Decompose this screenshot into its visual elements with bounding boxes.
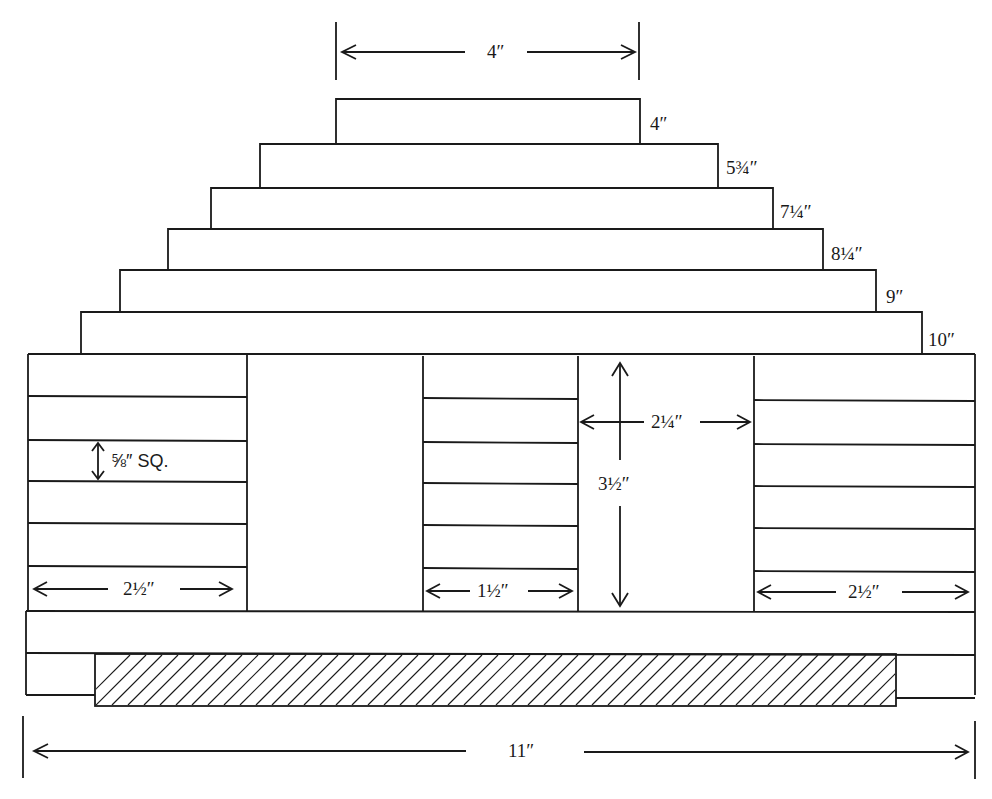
opening-width-label: 2¼″ bbox=[651, 412, 683, 431]
step-label-6: 10″ bbox=[928, 330, 955, 349]
stick-size-label: ⅝″ SQ. bbox=[111, 452, 168, 470]
step-label-5: 9″ bbox=[886, 287, 903, 306]
overall-width-label: 11″ bbox=[508, 741, 534, 760]
left-width-label: 2½″ bbox=[123, 579, 155, 598]
step-label-3: 7¼″ bbox=[780, 202, 812, 221]
top-width-label: 4″ bbox=[487, 42, 504, 61]
step-label-1: 4″ bbox=[650, 114, 667, 133]
hatched-base-board bbox=[80, 654, 930, 706]
stepped-layers bbox=[81, 99, 922, 354]
opening-height-label: 3½″ bbox=[598, 474, 630, 493]
left-stack bbox=[28, 396, 247, 567]
overall-width-dimension bbox=[23, 716, 975, 779]
right-stack bbox=[754, 400, 975, 572]
middle-width-label: 1½″ bbox=[477, 581, 509, 600]
right-width-label: 2½″ bbox=[848, 582, 880, 601]
stick-size-arrow bbox=[92, 443, 104, 479]
middle-stack bbox=[423, 398, 578, 569]
step-label-4: 8¼″ bbox=[831, 244, 863, 263]
diagram-canvas bbox=[0, 0, 992, 799]
step-label-2: 5¾″ bbox=[726, 158, 758, 177]
